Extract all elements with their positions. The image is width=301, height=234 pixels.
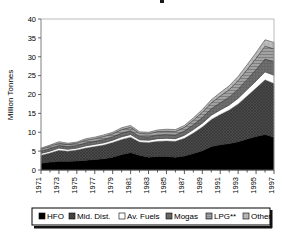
y-tick-label: 25 — [28, 71, 36, 80]
x-tick-label: 1991 — [213, 177, 222, 194]
x-tick-label: 1987 — [177, 177, 186, 194]
clipped-title-remnant — [160, 0, 164, 3]
x-tick-label: 1977 — [88, 177, 97, 194]
chart-legend: HFOMid. Dist.Av. FuelsMogasLPG**Other — [32, 208, 273, 229]
legend-swatch-black-swatch — [39, 213, 45, 219]
x-tick-label: 1979 — [106, 177, 115, 194]
legend-label: Mogas — [174, 212, 198, 221]
legend-label: Other — [251, 212, 271, 221]
legend-swatch-lighter-gray-swatch — [243, 213, 249, 219]
y-tick-label: 20 — [28, 90, 36, 99]
x-tick-label: 1971 — [34, 177, 43, 194]
y-tick-label: 30 — [28, 53, 36, 62]
legend-label: Mid. Dist. — [77, 212, 110, 221]
legend-swatch-dark-gray-swatch — [69, 213, 75, 219]
legend-label: HFO — [47, 212, 64, 221]
y-tick-label: 5 — [32, 147, 36, 156]
x-axis-ticks: 1971197319751977197919811983198519871989… — [34, 170, 276, 194]
y-tick-label: 35 — [28, 34, 36, 43]
legend-swatch-light-gray-swatch — [206, 213, 212, 219]
y-axis-ticks: 0510152025303540 — [28, 15, 41, 175]
legend-swatch-gray-swatch — [166, 213, 172, 219]
x-tick-label: 1993 — [231, 177, 240, 194]
y-tick-label: 15 — [28, 109, 36, 118]
legend-label: LPG** — [214, 212, 236, 221]
x-tick-label: 1995 — [249, 177, 258, 194]
chart-canvas: 0510152025303540 19711973197519771979198… — [0, 0, 301, 234]
x-tick-label: 1985 — [159, 177, 168, 194]
y-tick-label: 0 — [32, 166, 36, 175]
stacked-area-chart: 0510152025303540 19711973197519771979198… — [0, 0, 301, 234]
y-tick-label: 40 — [28, 15, 36, 24]
x-tick-label: 1989 — [195, 177, 204, 194]
x-tick-label: 1997 — [267, 177, 276, 194]
x-tick-label: 1975 — [70, 177, 79, 194]
y-tick-label: 10 — [28, 128, 36, 137]
y-axis-title: Million Tonnes — [6, 70, 15, 121]
x-tick-label: 1973 — [52, 177, 61, 194]
legend-swatch-white-swatch — [119, 213, 125, 219]
legend-shadow — [34, 226, 272, 229]
legend-label: Av. Fuels — [127, 212, 160, 221]
x-tick-label: 1983 — [142, 177, 151, 194]
x-tick-label: 1981 — [124, 177, 133, 194]
